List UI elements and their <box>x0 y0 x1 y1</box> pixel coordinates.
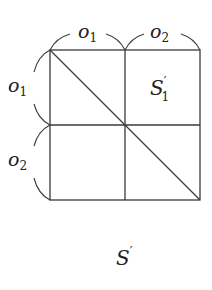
cell-label-s1-prime: S′1 <box>150 75 169 104</box>
left-label-2: o2 <box>8 148 27 173</box>
top-brace-2-left <box>125 34 144 50</box>
left-brace-1-bottom <box>34 104 50 125</box>
left-braces <box>34 50 50 200</box>
left-brace-1-top <box>34 50 50 72</box>
top-braces <box>50 34 200 50</box>
top-label-2: o2 <box>150 20 169 45</box>
top-label-1: o1 <box>78 20 97 45</box>
top-brace-1-left <box>50 34 70 50</box>
left-brace-2-bottom <box>34 178 50 200</box>
diagram-canvas: o1 o2 o1 o2 S′1 S′ <box>0 0 212 290</box>
grid <box>50 50 200 200</box>
left-brace-2-top <box>34 125 50 146</box>
top-brace-1-right <box>106 34 125 50</box>
left-label-1: o1 <box>8 74 27 99</box>
top-brace-2-right <box>181 34 200 50</box>
caption-s-prime: S′ <box>116 245 133 270</box>
